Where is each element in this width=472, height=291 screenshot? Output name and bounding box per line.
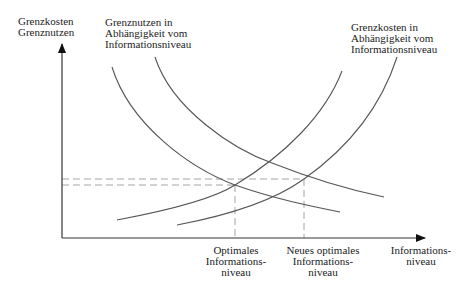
axes bbox=[62, 44, 425, 238]
cost-curve-1 bbox=[117, 71, 342, 220]
y-axis-label: Grenzkosten Grenznutzen bbox=[18, 16, 74, 38]
cost-curve-label: Grenzkosten in Abhängigkeit vom Informat… bbox=[351, 22, 437, 55]
new-optimal-level-label: Neues optimales Informations- niveau bbox=[283, 245, 363, 278]
benefit-curve-label: Grenznutzen in Abhängigkeit vom Informat… bbox=[105, 17, 191, 50]
benefit-curve-2 bbox=[155, 57, 384, 197]
cost-curves bbox=[117, 57, 397, 225]
diagram-canvas: Grenzkosten Grenznutzen Grenznutzen in A… bbox=[0, 0, 472, 291]
dashed-guides bbox=[62, 179, 304, 238]
optimal-level-label: Optimales Informations- niveau bbox=[205, 245, 267, 278]
benefit-curves bbox=[112, 57, 384, 212]
x-axis-label: Informations- niveau bbox=[386, 245, 456, 267]
cost-curve-2 bbox=[177, 57, 397, 225]
